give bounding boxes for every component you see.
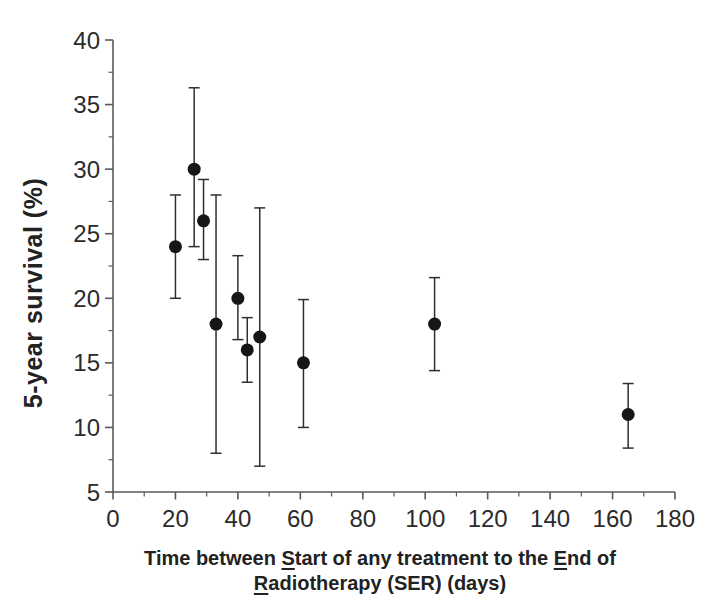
y-tick-label: 40 <box>73 27 100 54</box>
data-point-marker <box>231 292 244 305</box>
underlined-letter: S <box>281 547 294 569</box>
label-text: nd of <box>567 547 616 569</box>
tick-labels: 020406080100120140160180510152025303540 <box>73 27 695 533</box>
underlined-letter: R <box>254 572 268 594</box>
y-tick-label: 10 <box>73 414 100 441</box>
y-tick-label: 5 <box>87 479 100 506</box>
data-points <box>169 163 635 421</box>
data-point-marker <box>297 356 310 369</box>
x-tick-label: 80 <box>349 505 376 532</box>
data-point-marker <box>210 318 223 331</box>
x-tick-label: 0 <box>106 505 119 532</box>
x-tick-label: 100 <box>405 505 445 532</box>
underlined-letter: E <box>554 547 567 569</box>
y-tick-label: 30 <box>73 156 100 183</box>
x-axis-title: Time between Start of any treatment to t… <box>144 546 616 596</box>
x-axis-title-line1: Time between Start of any treatment to t… <box>144 546 616 571</box>
x-tick-label: 140 <box>530 505 570 532</box>
x-tick-label: 60 <box>287 505 314 532</box>
y-tick-label: 20 <box>73 285 100 312</box>
data-point-marker <box>197 214 210 227</box>
label-text: adiotherapy (SER) (days) <box>268 572 506 594</box>
y-tick-label: 15 <box>73 349 100 376</box>
data-point-marker <box>428 318 441 331</box>
y-tick-label: 35 <box>73 91 100 118</box>
y-tick-label: 25 <box>73 220 100 247</box>
label-text: tart of any treatment to the <box>295 547 554 569</box>
error-bars <box>170 88 634 466</box>
survival-vs-ser-scatter-chart: 020406080100120140160180510152025303540 <box>0 0 716 607</box>
label-text: Time between <box>144 547 281 569</box>
data-point-marker <box>188 163 201 176</box>
x-tick-label: 160 <box>593 505 633 532</box>
x-tick-label: 20 <box>162 505 189 532</box>
x-tick-label: 120 <box>468 505 508 532</box>
data-point-marker <box>241 343 254 356</box>
data-point-marker <box>253 331 266 344</box>
x-tick-label: 40 <box>225 505 252 532</box>
x-tick-label: 180 <box>655 505 695 532</box>
x-axis-title-line2: Radiotherapy (SER) (days) <box>144 571 616 596</box>
axes <box>105 40 675 500</box>
data-point-marker <box>622 408 635 421</box>
figure-container: 020406080100120140160180510152025303540 … <box>0 0 716 607</box>
data-point-marker <box>169 240 182 253</box>
y-axis-title: 5-year survival (%) <box>19 178 48 408</box>
